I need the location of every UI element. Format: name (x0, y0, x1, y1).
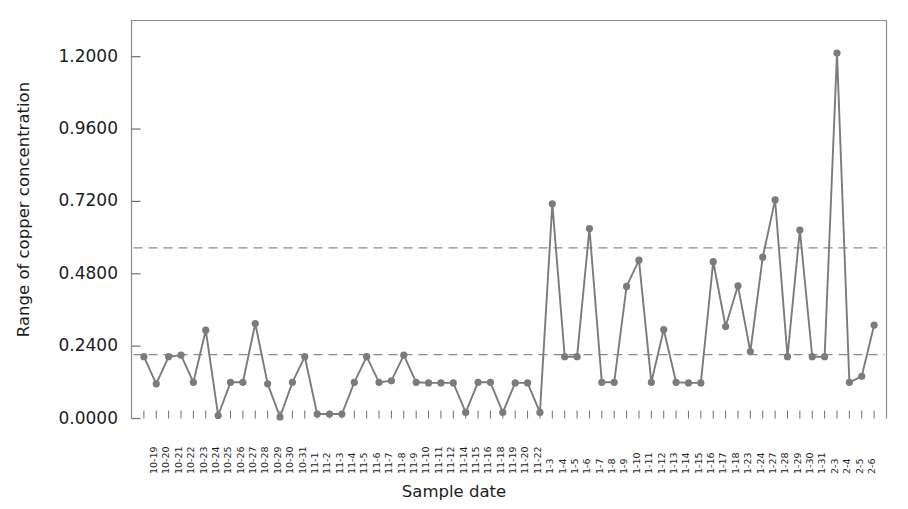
x-axis-tick-label: 1-24 (755, 452, 766, 474)
x-axis-tick-label: 11-10 (420, 446, 431, 474)
x-axis-tick-label: 2-4 (841, 458, 852, 474)
x-axis-tick-label: 1-9 (618, 458, 629, 474)
x-axis-tick-label: 1-3 (544, 458, 555, 474)
x-axis-title: Sample date (0, 482, 908, 501)
x-axis-tick-label: 11-4 (346, 452, 357, 474)
x-axis-tick-label: 10-25 (222, 446, 233, 474)
x-axis-tick-label: 11-7 (383, 452, 394, 474)
x-axis-tick-label: 11-14 (458, 446, 469, 474)
x-axis-tick-label: 11-1 (309, 452, 320, 474)
x-axis-tick-label: 10-23 (198, 446, 209, 474)
x-axis-tick-label: 1-4 (557, 458, 568, 474)
x-axis-tick-label: 2-5 (854, 458, 865, 474)
x-axis-tick-label: 1-18 (730, 452, 741, 474)
x-axis-tick-label: 11-8 (396, 452, 407, 474)
x-axis-tick-label: 11-12 (445, 446, 456, 474)
x-axis-tick-label: 10-19 (148, 446, 159, 474)
x-axis-tick-label: 10-28 (259, 446, 270, 474)
x-axis-tick-label: 10-29 (272, 446, 283, 474)
x-axis-tick-label: 11-18 (495, 446, 506, 474)
x-axis-tick-label: 1-12 (656, 452, 667, 474)
x-axis-tick-label: 11-20 (519, 446, 530, 474)
x-axis-tick-label: 1-14 (680, 452, 691, 474)
x-axis-tick-label: 1-10 (631, 452, 642, 474)
x-axis-tick-label: 10-24 (210, 446, 221, 474)
x-axis-tick-label: 10-30 (284, 446, 295, 474)
x-axis-tick-label: 11-15 (470, 446, 481, 474)
x-axis-tick-label: 1-16 (705, 452, 716, 474)
x-axis-tick-label: 11-16 (482, 446, 493, 474)
x-axis-tick-label: 1-23 (742, 452, 753, 474)
x-axis-tick-label: 1-6 (581, 458, 592, 474)
x-axis-tick-label: 11-19 (507, 446, 518, 474)
x-axis-tick-label: 2-3 (829, 458, 840, 474)
x-axis-tick-label: 10-20 (160, 446, 171, 474)
x-axis-tick-label: 1-15 (693, 452, 704, 474)
x-axis-tick-label: 1-31 (816, 452, 827, 474)
x-axis-tick-labels: 10-1910-2010-2110-2210-2310-2410-2510-26… (0, 0, 908, 509)
chart-figure: 0.00000.24000.48000.72000.96001.2000 10-… (0, 0, 908, 509)
y-axis-title: Range of copper concentration (14, 0, 33, 420)
x-axis-tick-label: 11-6 (371, 452, 382, 474)
x-axis-tick-label: 10-31 (297, 446, 308, 474)
x-axis-tick-label: 11-11 (433, 446, 444, 474)
x-axis-tick-label: 1-30 (804, 452, 815, 474)
x-axis-tick-label: 10-21 (173, 446, 184, 474)
x-axis-tick-label: 1-7 (594, 458, 605, 474)
x-axis-tick-label: 1-11 (643, 452, 654, 474)
x-axis-tick-label: 10-26 (235, 446, 246, 474)
x-axis-tick-label: 1-13 (668, 452, 679, 474)
x-axis-tick-label: 11-3 (334, 452, 345, 474)
x-axis-tick-label: 10-22 (185, 446, 196, 474)
x-axis-tick-label: 1-28 (779, 452, 790, 474)
x-axis-tick-label: 1-17 (717, 452, 728, 474)
x-axis-tick-label: 11-22 (532, 446, 543, 474)
x-axis-tick-label: 1-5 (569, 458, 580, 474)
x-axis-tick-label: 1-27 (767, 452, 778, 474)
x-axis-tick-label: 10-27 (247, 446, 258, 474)
x-axis-tick-label: 1-29 (792, 452, 803, 474)
x-axis-tick-label: 2-6 (866, 458, 877, 474)
x-axis-tick-label: 1-8 (606, 458, 617, 474)
x-axis-tick-label: 11-9 (408, 452, 419, 474)
x-axis-tick-label: 11-5 (358, 452, 369, 474)
x-axis-tick-label: 11-2 (321, 452, 332, 474)
